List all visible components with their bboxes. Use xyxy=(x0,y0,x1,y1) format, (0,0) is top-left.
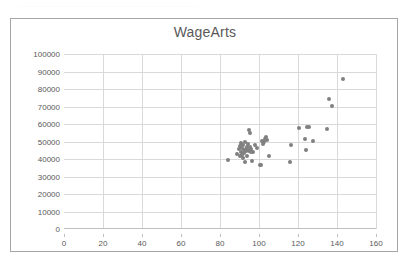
gridline-vertical xyxy=(103,54,104,229)
scatter-point[interactable] xyxy=(267,154,271,158)
gridline-vertical xyxy=(376,54,377,229)
chart-object[interactable]: WageArts 0100002000030000400005000060000… xyxy=(10,18,398,252)
y-axis-tick-label: 50000 xyxy=(38,137,60,146)
x-axis-tick-label: 100 xyxy=(252,239,265,248)
x-axis-tick-label: 160 xyxy=(369,239,382,248)
scatter-point[interactable] xyxy=(250,159,254,163)
scatter-point[interactable] xyxy=(327,97,331,101)
y-axis-tick-label: 70000 xyxy=(38,102,60,111)
x-axis-tick-mark xyxy=(337,234,338,237)
gridline-vertical xyxy=(142,54,143,229)
x-axis-line xyxy=(64,228,376,229)
y-axis-tick-label: 20000 xyxy=(38,190,60,199)
y-axis-tick-label: 10000 xyxy=(38,207,60,216)
gridline-vertical xyxy=(181,54,182,229)
scatter-point[interactable] xyxy=(255,146,259,150)
scatter-point[interactable] xyxy=(245,154,249,158)
x-axis-tick-label: 80 xyxy=(216,239,225,248)
scatter-point[interactable] xyxy=(243,160,247,164)
x-axis-tick-mark xyxy=(142,234,143,237)
scatter-point[interactable] xyxy=(341,77,345,81)
gridline-vertical xyxy=(337,54,338,229)
scatter-point[interactable] xyxy=(251,150,255,154)
x-axis-tick-mark xyxy=(103,234,104,237)
y-axis-tick-label: 60000 xyxy=(38,120,60,129)
y-axis-tick-label: 40000 xyxy=(38,155,60,164)
x-axis-tick-label: 20 xyxy=(99,239,108,248)
y-axis-tick-labels: 0100002000030000400005000060000700008000… xyxy=(11,54,60,229)
y-axis-tick-label: 80000 xyxy=(38,85,60,94)
scatter-point[interactable] xyxy=(265,138,269,142)
x-axis-tick-mark xyxy=(376,234,377,237)
y-axis-tick-label: 0 xyxy=(56,225,60,234)
y-axis-tick-label: 100000 xyxy=(33,50,60,59)
scatter-point[interactable] xyxy=(248,131,252,135)
y-axis-tick-label: 90000 xyxy=(38,67,60,76)
x-axis-tick-mark xyxy=(181,234,182,237)
x-axis-tick-mark xyxy=(64,234,65,237)
gridline-vertical xyxy=(220,54,221,229)
y-axis-tick-label: 30000 xyxy=(38,172,60,181)
x-axis-tick-mark xyxy=(220,234,221,237)
x-axis-tick-label: 120 xyxy=(291,239,304,248)
scatter-point[interactable] xyxy=(325,127,329,131)
chart-title: WageArts xyxy=(11,24,399,40)
x-axis-tick-label: 60 xyxy=(177,239,186,248)
x-axis-tick-mark xyxy=(259,234,260,237)
scatter-point[interactable] xyxy=(289,143,293,147)
x-axis-tick-mark xyxy=(298,234,299,237)
plot-area[interactable] xyxy=(64,54,376,229)
worksheet-faint-rule xyxy=(18,6,198,7)
scatter-point[interactable] xyxy=(303,137,307,141)
worksheet-top-strip xyxy=(0,0,409,13)
scatter-point[interactable] xyxy=(307,125,311,129)
x-axis-tick-label: 40 xyxy=(138,239,147,248)
scatter-point[interactable] xyxy=(226,158,230,162)
x-axis-tick-labels: 020406080100120140160 xyxy=(64,234,376,248)
scatter-point[interactable] xyxy=(297,126,301,130)
gridline-vertical xyxy=(298,54,299,229)
x-axis-tick-label: 140 xyxy=(330,239,343,248)
x-axis-tick-label: 0 xyxy=(62,239,66,248)
scatter-point[interactable] xyxy=(311,139,315,143)
scatter-point[interactable] xyxy=(304,148,308,152)
scatter-point[interactable] xyxy=(330,104,334,108)
scatter-point[interactable] xyxy=(259,163,263,167)
scatter-point[interactable] xyxy=(288,160,292,164)
